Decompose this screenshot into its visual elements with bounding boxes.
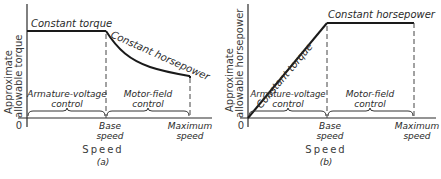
constant-horsepower-label-a: Constant horsepower <box>109 29 212 83</box>
motor-field-label-a: Motor-field <box>124 89 173 99</box>
motor-speed-diagrams: Approximate allowable torque Constant to… <box>0 0 441 179</box>
max-speed-label-a-line2: speed <box>176 131 203 141</box>
constant-horsepower-label-b: Constant horsepower <box>328 9 436 20</box>
panel-a: Approximate allowable torque Constant to… <box>3 4 212 167</box>
max-speed-label-b-line1: Maximum <box>395 121 440 131</box>
motor-field-control-label-b: control <box>354 99 386 109</box>
base-speed-label-b-line1: Base <box>319 121 341 131</box>
motor-field-control-label-a: control <box>132 99 164 109</box>
brace-motor-field-b <box>328 108 413 116</box>
y-axis-label-a-line2: allowable torque <box>13 35 24 118</box>
max-speed-label-a-line1: Maximum <box>168 121 213 131</box>
brace-armature-a <box>28 108 105 116</box>
caption-a: (a) <box>97 157 110 167</box>
motor-field-label-b: Motor-field <box>346 89 395 99</box>
origin-label-b: 0 <box>238 120 244 131</box>
armature-control-label-a: control <box>51 99 83 109</box>
constant-torque-label-a: Constant torque <box>31 18 112 29</box>
base-speed-label-a-line1: Base <box>99 121 121 131</box>
panel-b: Approximate allowable horsepower Constan… <box>224 4 439 167</box>
caption-b: (b) <box>320 157 333 167</box>
armature-voltage-label-a: Armature-voltage <box>26 89 107 99</box>
brace-motor-field-a <box>107 108 189 116</box>
x-axis-label-b: Speed <box>305 144 346 155</box>
origin-label-a: 0 <box>16 120 22 131</box>
max-speed-label-b-line2: speed <box>403 131 430 141</box>
y-axis-label-b-line2: allowable horsepower <box>234 8 245 118</box>
armature-voltage-label-b: Armature-voltage <box>249 89 325 99</box>
x-axis-label-a: Speed <box>82 144 123 155</box>
base-speed-label-a-line2: speed <box>96 131 123 141</box>
base-speed-label-b-line2: speed <box>316 131 343 141</box>
armature-control-label-b: control <box>272 99 304 109</box>
